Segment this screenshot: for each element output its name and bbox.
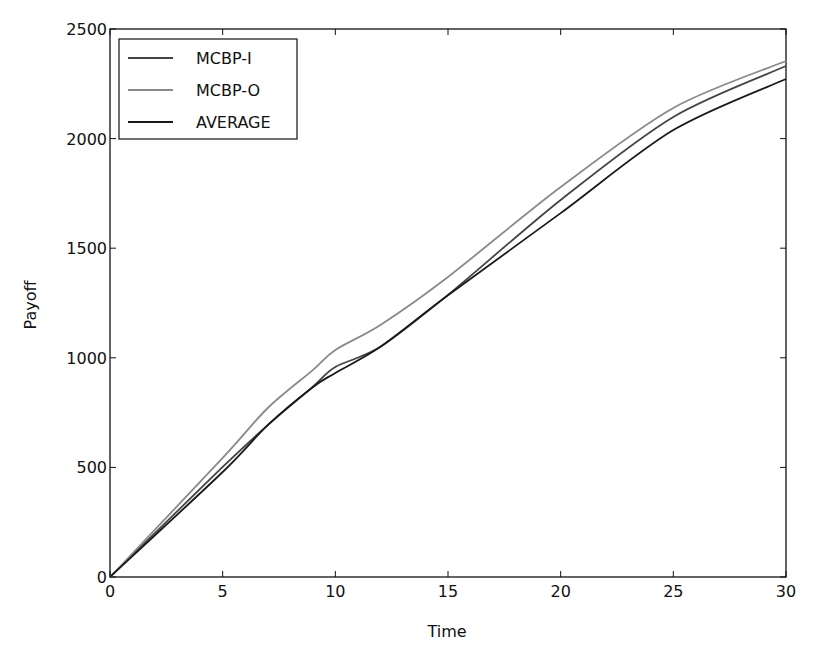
y-tick-label: 2000	[66, 130, 107, 149]
x-axis-label: Time	[426, 622, 466, 641]
legend-label: MCBP-I	[196, 49, 252, 68]
series-line-average	[110, 79, 786, 577]
y-tick-label: 1000	[66, 349, 107, 368]
x-tick-label: 5	[218, 582, 228, 601]
series-line-mcbp-i	[110, 66, 786, 577]
y-tick-label: 2500	[66, 20, 107, 39]
y-axis-label: Payoff	[21, 280, 40, 330]
x-tick-label: 25	[663, 582, 683, 601]
x-tick-label: 15	[438, 582, 458, 601]
x-tick-label: 10	[325, 582, 345, 601]
legend-label: MCBP-O	[196, 81, 260, 100]
line-chart: 05101520253005001000150020002500 Time Pa…	[0, 0, 813, 645]
y-tick-label: 0	[97, 568, 107, 587]
x-tick-label: 20	[550, 582, 570, 601]
x-tick-label: 30	[776, 582, 796, 601]
legend-label: AVERAGE	[196, 113, 271, 132]
y-tick-label: 500	[76, 458, 107, 477]
y-tick-label: 1500	[66, 239, 107, 258]
legend: MCBP-IMCBP-OAVERAGE	[119, 39, 297, 139]
